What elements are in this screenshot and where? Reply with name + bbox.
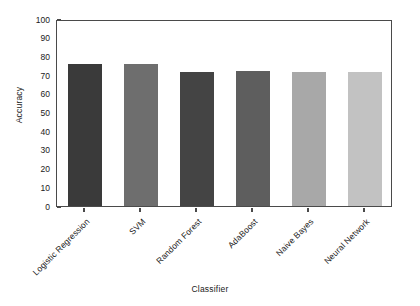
y-tick-label-10: 10 — [24, 183, 50, 193]
x-tick-mark-3 — [251, 208, 252, 212]
x-axis-title: Classifier — [0, 284, 420, 294]
bars-layer — [57, 21, 391, 206]
bar-2 — [180, 72, 214, 206]
y-tick-label-100: 100 — [24, 15, 50, 25]
y-tick-label-70: 70 — [24, 71, 50, 81]
y-tick-label-40: 40 — [24, 127, 50, 137]
y-tick-label-80: 80 — [24, 52, 50, 62]
y-tick-label-50: 50 — [24, 108, 50, 118]
bar-1 — [124, 64, 158, 206]
x-tick-mark-2 — [195, 208, 196, 212]
bar-5 — [348, 72, 382, 206]
bar-chart-figure: Accuracy 0102030405060708090100 Logistic… — [0, 0, 420, 306]
plot-area — [56, 20, 392, 207]
y-tick-label-20: 20 — [24, 164, 50, 174]
x-tick-mark-1 — [139, 208, 140, 212]
y-tick-label-90: 90 — [24, 33, 50, 43]
y-tick-label-30: 30 — [24, 145, 50, 155]
x-tick-mark-0 — [83, 208, 84, 212]
bar-4 — [292, 72, 326, 206]
y-tick-label-60: 60 — [24, 89, 50, 99]
bar-3 — [236, 71, 270, 206]
bar-0 — [68, 64, 102, 206]
x-tick-mark-5 — [363, 208, 364, 212]
x-tick-mark-4 — [307, 208, 308, 212]
y-tick-label-0: 0 — [24, 202, 50, 212]
